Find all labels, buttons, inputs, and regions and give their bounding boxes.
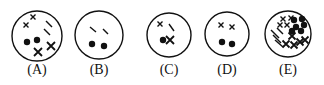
dot-icon bbox=[229, 41, 235, 47]
panel-e bbox=[265, 11, 311, 57]
dash-icon bbox=[44, 29, 50, 35]
panel-a bbox=[12, 11, 62, 61]
dot-icon bbox=[299, 16, 305, 22]
dash-icon bbox=[103, 29, 108, 34]
panel-label-b: (B) bbox=[90, 62, 109, 78]
dash-icon bbox=[169, 24, 174, 31]
dot-icon bbox=[301, 22, 307, 28]
dot-icon bbox=[298, 28, 304, 34]
dash-icon bbox=[277, 28, 283, 34]
cross-icon bbox=[24, 23, 29, 28]
dash-icon bbox=[90, 27, 96, 32]
dot-icon bbox=[24, 39, 30, 45]
dot-icon bbox=[101, 43, 107, 49]
cross-icon bbox=[283, 41, 290, 48]
dot-icon bbox=[219, 39, 225, 45]
circle-outline bbox=[205, 12, 249, 56]
cross-icon bbox=[219, 23, 224, 28]
cross-icon bbox=[34, 48, 42, 56]
cross-icon bbox=[278, 23, 283, 28]
panel-c bbox=[147, 13, 191, 57]
cross-icon bbox=[166, 36, 174, 44]
circle-outline bbox=[147, 13, 191, 57]
dot-icon bbox=[89, 41, 95, 47]
dot-icon bbox=[34, 37, 40, 43]
dash-icon bbox=[46, 21, 52, 27]
panel-label-e: (E) bbox=[279, 62, 297, 78]
cross-icon bbox=[31, 15, 36, 20]
circle-outline bbox=[75, 11, 123, 59]
panel-label-d: (D) bbox=[217, 62, 236, 78]
dot-icon bbox=[160, 37, 166, 43]
cross-icon bbox=[230, 25, 235, 30]
cross-icon bbox=[47, 42, 55, 50]
panel-label-c: (C) bbox=[160, 62, 179, 78]
cross-icon bbox=[281, 17, 286, 22]
cross-icon bbox=[158, 22, 163, 27]
panel-b bbox=[75, 11, 123, 59]
panel-d bbox=[205, 12, 249, 56]
panel-label-a: (A) bbox=[27, 62, 46, 78]
cross-icon bbox=[285, 23, 290, 28]
